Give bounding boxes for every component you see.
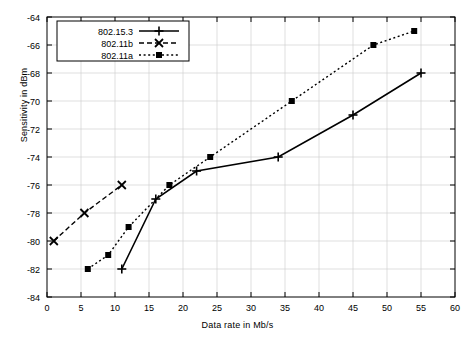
x-tick-label: 45	[348, 303, 358, 313]
legend-label-802-11a: 802.11a	[101, 51, 133, 61]
x-tick-label: 15	[144, 303, 154, 313]
chart-legend: 802.15.3802.11b802.11a	[57, 21, 189, 61]
y-tick-label: -84	[27, 293, 40, 303]
x-tick-label: 25	[212, 303, 222, 313]
y-tick-label: -64	[27, 13, 40, 23]
y-tick-label: -78	[27, 209, 40, 219]
x-tick-label: 5	[78, 303, 83, 313]
x-tick-label: 35	[280, 303, 290, 313]
x-tick-label: 30	[246, 303, 256, 313]
chart-figure: 051015202530354045505560-84-82-80-78-76-…	[0, 0, 475, 343]
y-tick-label: -76	[27, 181, 40, 191]
data-series-layer	[50, 28, 426, 274]
plot-area: 051015202530354045505560-84-82-80-78-76-…	[0, 0, 475, 343]
y-axis-title: Sensitivity in dBm	[19, 45, 29, 165]
x-tick-label: 60	[450, 303, 460, 313]
x-tick-label: 20	[178, 303, 188, 313]
x-tick-label: 40	[314, 303, 324, 313]
legend-label-802-11b: 802.11b	[101, 39, 133, 49]
x-tick-label: 0	[44, 303, 49, 313]
x-tick-label: 50	[382, 303, 392, 313]
legend-label-802-15-3: 802.15.3	[98, 27, 133, 37]
series-802-15-3	[117, 69, 425, 274]
x-tick-label: 55	[416, 303, 426, 313]
y-tick-label: -80	[27, 237, 40, 247]
x-axis-title: Data rate in Mb/s	[0, 320, 475, 330]
x-tick-label: 10	[110, 303, 120, 313]
y-tick-label: -82	[27, 265, 40, 275]
